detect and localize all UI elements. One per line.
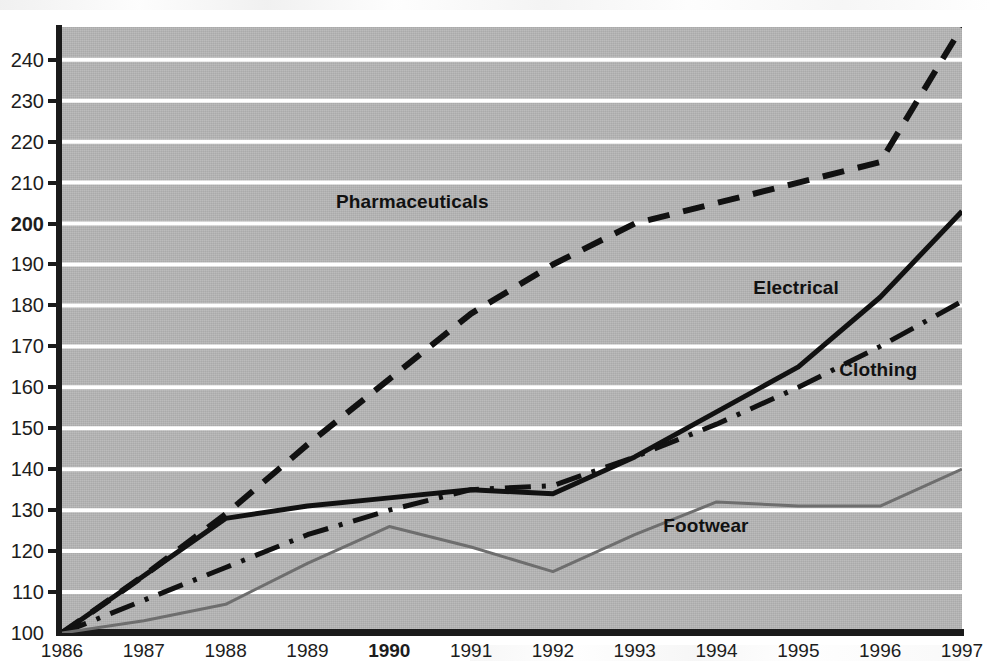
scan-artifact-top	[0, 0, 990, 10]
series-lines	[62, 27, 962, 633]
y-tick-mark	[48, 140, 57, 144]
y-tick-mark	[48, 590, 57, 594]
y-tick-110: 110	[0, 581, 62, 603]
y-tick-mark	[48, 549, 57, 553]
y-tick-mark	[48, 385, 57, 389]
y-tick-mark	[48, 262, 57, 266]
y-tick-mark	[48, 303, 57, 307]
y-tick-mark	[48, 467, 57, 471]
x-tick-label-1992: 1992	[518, 639, 588, 663]
y-tick-label: 120	[0, 540, 44, 562]
y-tick-label: 150	[0, 417, 44, 439]
plot-svg	[62, 27, 962, 633]
series-label-electrical: Electrical	[753, 277, 839, 299]
y-tick-180: 180	[0, 294, 62, 316]
y-tick-mark	[48, 181, 57, 185]
y-tick-200: 200	[0, 213, 62, 235]
series-line-clothing	[62, 301, 962, 633]
x-tick-label-1993: 1993	[600, 639, 670, 663]
series-label-pharmaceuticals: Pharmaceuticals	[336, 191, 489, 213]
x-tick-label-1996: 1996	[845, 639, 915, 663]
x-tick-label-1995: 1995	[763, 639, 833, 663]
series-label-footwear: Footwear	[663, 515, 748, 537]
y-tick-190: 190	[0, 253, 62, 275]
y-tick-160: 160	[0, 376, 62, 398]
y-tick-label: 110	[0, 581, 44, 603]
x-tick-label-1991: 1991	[436, 639, 506, 663]
x-tick-label-1988: 1988	[191, 639, 261, 663]
y-tick-230: 230	[0, 90, 62, 112]
x-tick-label-1989: 1989	[272, 639, 342, 663]
y-tick-240: 240	[0, 49, 62, 71]
y-tick-mark	[48, 99, 57, 103]
y-tick-mark	[48, 344, 57, 348]
plot-area	[62, 27, 962, 633]
y-tick-220: 220	[0, 131, 62, 153]
y-tick-120: 120	[0, 540, 62, 562]
y-tick-mark	[48, 508, 57, 512]
y-tick-210: 210	[0, 172, 62, 194]
y-tick-mark	[48, 222, 57, 226]
y-tick-label: 170	[0, 335, 44, 357]
y-tick-label: 200	[0, 213, 44, 235]
y-tick-label: 230	[0, 90, 44, 112]
x-tick-label-1990: 1990	[354, 639, 424, 663]
gridlines	[62, 60, 962, 592]
y-tick-mark	[48, 426, 57, 430]
x-tick-label-1987: 1987	[109, 639, 179, 663]
x-axis-tick-labels: 1986198719881989199019911992199319941995…	[62, 639, 962, 665]
series-line-electrical	[62, 211, 962, 633]
y-tick-label: 210	[0, 172, 44, 194]
series-line-pharmaceuticals	[62, 27, 962, 633]
y-tick-label: 220	[0, 131, 44, 153]
x-tick-label-1986: 1986	[27, 639, 97, 663]
series-label-clothing: Clothing	[839, 359, 917, 381]
y-tick-label: 240	[0, 49, 44, 71]
y-tick-140: 140	[0, 458, 62, 480]
y-tick-label: 180	[0, 294, 44, 316]
y-tick-mark	[48, 58, 57, 62]
y-tick-label: 140	[0, 458, 44, 480]
y-tick-label: 130	[0, 499, 44, 521]
y-tick-label: 160	[0, 376, 44, 398]
y-tick-label: 190	[0, 253, 44, 275]
line-chart: 2402302202102001901801701601501401301201…	[0, 0, 990, 665]
x-tick-label-1997: 1997	[927, 639, 990, 663]
y-tick-150: 150	[0, 417, 62, 439]
x-tick-label-1994: 1994	[682, 639, 752, 663]
y-tick-170: 170	[0, 335, 62, 357]
y-axis-tick-labels: 2402302202102001901801701601501401301201…	[0, 0, 62, 665]
y-tick-130: 130	[0, 499, 62, 521]
